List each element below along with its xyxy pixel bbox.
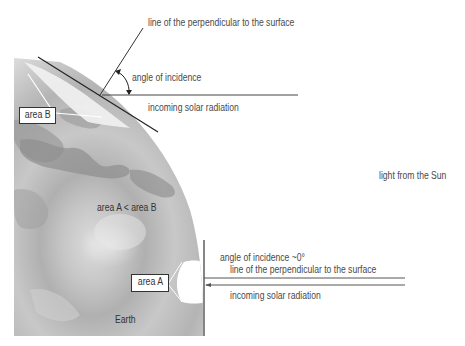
area-b-box: area B xyxy=(19,107,56,124)
radiation-arrowhead-icon xyxy=(205,283,211,287)
label-angle-of-incidence-zero: angle of incidence ~0° xyxy=(220,252,305,264)
perpendicular-line-b xyxy=(100,28,143,95)
label-earth: Earth xyxy=(115,314,136,326)
label-perpendicular-bottom: line of the perpendicular to the surface xyxy=(230,264,376,276)
label-angle-of-incidence: angle of incidence xyxy=(132,72,201,84)
diagram-canvas: line of the perpendicular to the surface… xyxy=(0,0,465,346)
label-perpendicular-top: line of the perpendicular to the surface xyxy=(148,17,294,29)
label-incoming-radiation-top: incoming solar radiation xyxy=(148,102,239,114)
arc-arrowhead-bottom-icon xyxy=(126,90,132,95)
label-area-comparison: area A < area B xyxy=(97,202,157,214)
label-light-from-sun: light from the Sun xyxy=(379,170,446,182)
area-a-box: area A xyxy=(131,274,169,292)
label-incoming-radiation-bottom: incoming solar radiation xyxy=(230,290,321,302)
area-b-label: area B xyxy=(25,108,51,122)
area-a-label: area A xyxy=(137,275,162,289)
earth-globe xyxy=(0,40,220,340)
